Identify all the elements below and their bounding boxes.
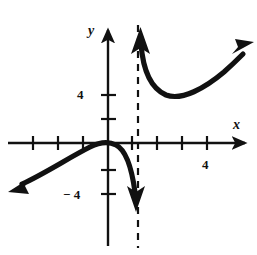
y-tick-label-negative-4: − 4 [63,188,80,201]
curve-right-branch [131,27,254,96]
y-axis [101,30,116,246]
x-axis-label: x [233,118,240,132]
x-axis [8,136,245,150]
y-axis-label: y [88,24,94,38]
y-tick-label-4: 4 [77,88,84,101]
graph-figure: y x 4 − 4 4 [0,0,257,255]
x-tick-label-4: 4 [202,158,209,171]
graph-canvas [0,0,257,255]
